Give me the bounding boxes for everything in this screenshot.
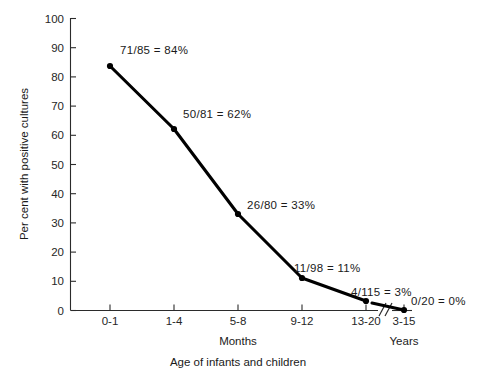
y-tick-label-70: 70 [51,100,64,112]
x-tick-label-1-4: 1-4 [166,315,183,327]
y-tick-label-30: 30 [51,217,64,229]
data-point-13-20 [363,298,369,304]
data-label-5-8: 26/80 = 33% [247,199,315,211]
data-label-3-15: 0/20 = 0% [411,295,466,307]
y-tick-label-100: 100 [45,13,64,25]
x-axis-title: Age of infants and children [170,356,306,368]
x-axis-group-label-months: Months [219,335,257,347]
x-tick-label-0-1: 0-1 [102,315,119,327]
x-axis-ticks [110,305,404,311]
series-line-years [372,303,404,310]
chart-figure: 0 10 20 30 40 50 60 70 80 90 100 0-1 1-4… [0,0,492,376]
data-point-3-15 [401,307,407,313]
y-tick-label-60: 60 [51,129,64,141]
data-label-9-12: 11/98 = 11% [294,262,361,274]
y-tick-label-0: 0 [58,305,64,317]
x-tick-label-9-12: 9-12 [290,315,313,327]
y-tick-label-80: 80 [51,71,64,83]
data-label-1-4: 50/81 = 62% [183,108,251,120]
x-tick-label-3-15: 3-15 [392,315,415,327]
y-tick-label-90: 90 [51,42,64,54]
line-chart-plot: 0 10 20 30 40 50 60 70 80 90 100 0-1 1-4… [0,0,492,376]
data-point-1-4 [171,126,177,132]
data-point-0-1 [107,63,113,69]
y-tick-label-10: 10 [51,275,64,287]
y-tick-label-20: 20 [51,246,64,258]
y-tick-label-50: 50 [51,159,64,171]
y-tick-label-40: 40 [51,188,64,200]
data-point-9-12 [299,275,305,281]
data-label-13-20: 4/115 = 3% [351,286,412,298]
x-axis-group-label-years: Years [390,335,419,347]
x-tick-label-13-20: 13-20 [351,315,380,327]
x-tick-label-5-8: 5-8 [230,315,247,327]
data-point-5-8 [235,211,241,217]
data-label-0-1: 71/85 = 84% [120,44,188,56]
y-axis-title: Per cent with positive cultures [18,88,30,240]
y-axis-ticks [71,19,77,311]
